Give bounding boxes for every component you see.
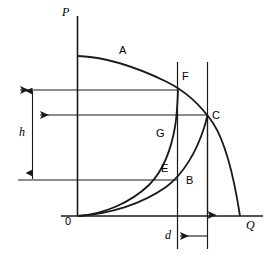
curve-b <box>78 115 208 216</box>
horizontal-reference-lines <box>18 90 207 180</box>
curve-label-b: B <box>186 175 193 186</box>
point-label-f: F <box>182 71 189 82</box>
axes-group <box>61 16 263 216</box>
curve-label-a: A <box>119 45 126 56</box>
curve-eg <box>78 90 178 216</box>
origin-label: 0 <box>65 216 71 227</box>
y-axis-label: P <box>62 6 69 18</box>
distance-dimension-label: d <box>165 229 171 241</box>
curve-label-g: G <box>156 128 165 139</box>
point-label-c: C <box>212 110 220 121</box>
x-axis-label: Q <box>246 219 255 231</box>
curve-label-e: E <box>161 163 168 174</box>
diagram-svg <box>0 0 277 261</box>
figure-canvas: P Q 0 h d A F C G E B <box>0 0 277 261</box>
height-dimension-label: h <box>19 126 25 138</box>
